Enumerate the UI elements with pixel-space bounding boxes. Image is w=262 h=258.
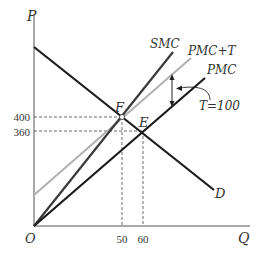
point-f-marker: [120, 115, 125, 120]
point-f-label: F: [114, 100, 125, 115]
curve-smc: [34, 52, 173, 226]
x-axis-label: Q: [238, 230, 250, 246]
y-axis-label: P: [26, 8, 37, 24]
label-demand: D: [214, 186, 226, 201]
point-e-label: E: [138, 115, 149, 130]
x-tick-60: 60: [138, 233, 150, 245]
y-tick-400: 400: [14, 111, 31, 123]
externality-diagram: P Q O 400 360 50 60 F E SMC PMC+T PMC D …: [0, 0, 262, 258]
x-tick-50: 50: [117, 233, 129, 245]
label-pmc: PMC: [206, 63, 237, 77]
label-smc: SMC: [150, 37, 180, 51]
label-pmc-plus-t: PMC+T: [187, 44, 237, 58]
pointer-head-icon: [176, 86, 182, 92]
y-tick-360: 360: [14, 126, 31, 138]
tax-label: T=100: [199, 99, 240, 113]
origin-label: O: [25, 231, 36, 246]
